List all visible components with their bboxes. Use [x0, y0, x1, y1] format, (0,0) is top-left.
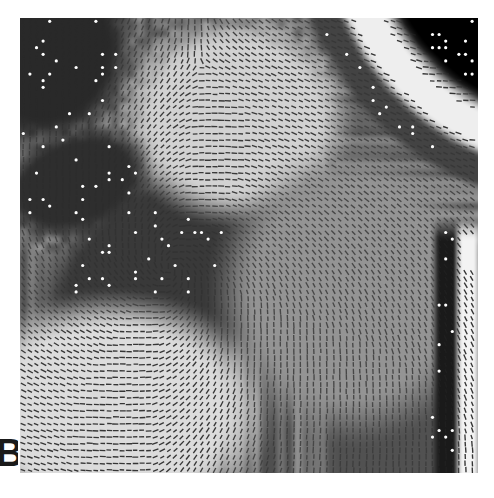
panel-letter-label: B — [0, 432, 18, 474]
figure-panel-b: B — [0, 0, 494, 498]
mri-slice-canvas — [20, 18, 478, 473]
mri-vector-field-image — [20, 18, 478, 473]
